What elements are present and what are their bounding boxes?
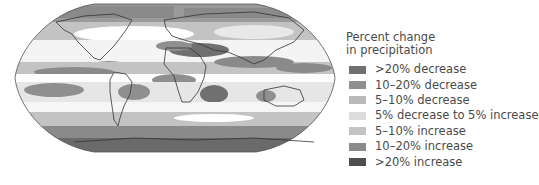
legend-title: Percent change in precipitation	[346, 31, 524, 57]
legend-swatch	[349, 143, 366, 151]
legend-label: 10–20% decrease	[375, 79, 477, 92]
world-map-graphic	[14, 2, 336, 154]
map-shading	[14, 2, 336, 154]
legend-title-line2: in precipitation	[346, 44, 524, 57]
legend-item: >20% increase	[345, 154, 524, 169]
legend-swatch	[349, 112, 366, 120]
legend-item: 5–10% decrease	[345, 93, 524, 108]
legend-label: >20% decrease	[375, 63, 466, 76]
precipitation-change-map	[14, 2, 336, 154]
legend-item: 5–10% increase	[345, 124, 524, 139]
legend-item: 5% decrease to 5% increase	[345, 108, 524, 123]
legend-item: 10–20% increase	[345, 139, 524, 154]
legend-swatch	[349, 158, 366, 166]
legend-label: 5% decrease to 5% increase	[375, 109, 539, 122]
legend-swatch	[349, 127, 366, 135]
legend-swatch	[349, 81, 366, 89]
legend: Percent change in precipitation >20% dec…	[345, 31, 524, 170]
legend-item: >20% decrease	[345, 62, 524, 77]
legend-label: 10–20% increase	[375, 140, 473, 153]
legend-label: >20% increase	[375, 156, 462, 169]
legend-label: 5–10% increase	[375, 125, 466, 138]
legend-label: 5–10% decrease	[375, 94, 470, 107]
legend-swatch	[349, 96, 366, 104]
legend-item: 10–20% decrease	[345, 77, 524, 92]
legend-swatch	[349, 66, 366, 74]
